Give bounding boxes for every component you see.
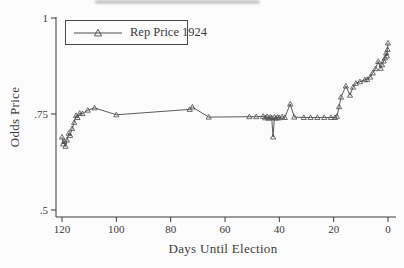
x-axis-tick-label: 40 xyxy=(274,223,286,235)
plot-area: 1.75.5120100806040200 xyxy=(0,0,404,268)
legend-line-triangle-icon xyxy=(73,28,123,38)
odds-price-1924-figure: 1.75.5120100806040200 Odds Price Days Un… xyxy=(0,0,404,268)
x-axis-title: Days Until Election xyxy=(169,241,278,257)
legend-entry-label: Rep Price 1924 xyxy=(130,25,207,40)
x-axis-tick-label: 120 xyxy=(54,223,71,235)
y-axis-tick-label: .5 xyxy=(40,204,49,216)
x-axis-tick-label: 80 xyxy=(165,223,177,235)
x-axis-tick-label: 60 xyxy=(220,223,232,235)
y-axis-tick-label: .75 xyxy=(34,108,48,120)
y-axis-title: Odds Price xyxy=(7,87,23,147)
y-axis-tick-label: 1 xyxy=(43,12,49,24)
x-axis-tick-label: 20 xyxy=(328,223,340,235)
x-axis-tick-label: 0 xyxy=(385,223,391,235)
x-axis-tick-label: 100 xyxy=(108,223,125,235)
series-line xyxy=(62,43,388,146)
legend-box: Rep Price 1924 xyxy=(65,20,188,45)
